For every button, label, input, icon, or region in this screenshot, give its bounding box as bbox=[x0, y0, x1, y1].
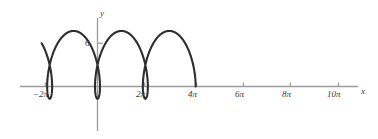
cycloid-plot-figure: −2π 2π 4π 6π 8π 10π 6 x y bbox=[0, 0, 378, 139]
x-axis-label: x bbox=[361, 87, 365, 96]
x-tick-label-6pi: 6π bbox=[235, 90, 244, 99]
y-tick-label-6: 6 bbox=[85, 39, 90, 48]
plot-canvas bbox=[0, 0, 378, 139]
y-axis-label: y bbox=[100, 9, 104, 18]
axes-group bbox=[20, 18, 358, 131]
x-tick-label-4pi: 4π bbox=[188, 90, 197, 99]
x-tick-label-8pi: 8π bbox=[282, 90, 291, 99]
x-tick-label-2pi: 2π bbox=[136, 90, 145, 99]
cycloid-curve-group bbox=[42, 31, 196, 99]
x-tick-label--2pi: −2π bbox=[33, 90, 48, 99]
x-tick-label-10pi: 10π bbox=[327, 90, 341, 99]
prolate-cycloid-curve bbox=[42, 31, 196, 99]
